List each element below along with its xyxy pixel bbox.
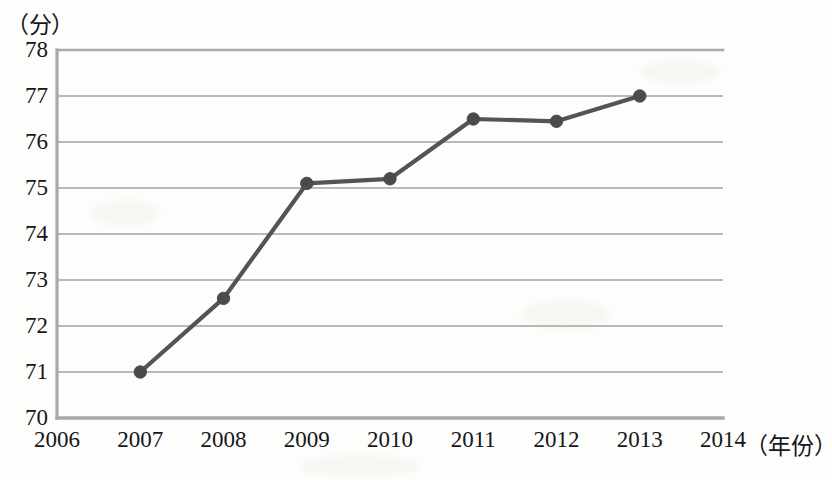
data-point-marker	[467, 113, 479, 125]
data-point-marker	[134, 366, 146, 378]
data-point-marker	[301, 177, 313, 189]
data-point-marker	[217, 292, 229, 304]
data-point-marker	[634, 90, 646, 102]
data-point-marker	[550, 115, 562, 127]
plot-area	[0, 0, 832, 480]
gridlines	[57, 96, 723, 372]
data-point-marker	[384, 173, 396, 185]
line-chart: （分） 707172737475767778 20062007200820092…	[0, 0, 832, 480]
